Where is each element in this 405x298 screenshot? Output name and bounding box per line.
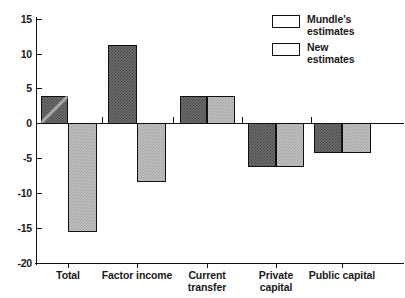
y-axis-label--10: -10 — [0, 188, 32, 198]
light-swatch-icon — [272, 43, 300, 56]
bar-private-capital-new[interactable] — [276, 123, 304, 167]
y-axis-label-5: 5 — [0, 83, 32, 93]
x-axis-line — [35, 263, 404, 264]
y-tick--10 — [36, 193, 42, 194]
zero-tick-1 — [102, 117, 103, 123]
x-axis-label-factor-income: Factor income — [92, 270, 182, 282]
x-axis-label-current-transfer: Current transfer — [172, 270, 242, 293]
x-tick-total — [68, 263, 69, 268]
bar-current-transfer-new[interactable] — [207, 96, 235, 124]
y-tick-5 — [36, 88, 42, 89]
y-tick-15 — [36, 19, 42, 20]
dark-swatch-icon — [272, 15, 300, 28]
legend-label-mundle: Mundle's estimates — [307, 14, 355, 37]
bar-public-capital-new[interactable] — [342, 123, 371, 153]
x-tick-public-capital — [342, 263, 343, 268]
legend-label-new: New estimates — [307, 42, 355, 65]
legend-item-mundle[interactable]: Mundle's estimates — [272, 14, 400, 37]
x-tick-current-transfer — [207, 263, 208, 268]
bar-total-mundle[interactable] — [41, 96, 68, 124]
x-tick-private-capital — [276, 263, 277, 268]
y-tick--15 — [36, 228, 42, 229]
chart-legend: Mundle's estimates New estimates — [272, 14, 400, 70]
zero-tick-2 — [173, 117, 174, 123]
y-axis-label--15: -15 — [0, 223, 32, 233]
y-tick-10 — [36, 54, 42, 55]
x-tick-factor-income — [137, 263, 138, 268]
bar-total-new[interactable] — [68, 123, 97, 232]
x-axis-label-public-capital: Public capital — [298, 270, 386, 282]
bar-factor-income-mundle[interactable] — [108, 45, 137, 124]
bar-factor-income-new[interactable] — [137, 123, 166, 182]
zero-tick-3 — [242, 117, 243, 123]
y-axis-label--20: -20 — [0, 258, 32, 268]
bar-private-capital-mundle[interactable] — [248, 123, 276, 167]
legend-item-new[interactable]: New estimates — [272, 42, 400, 65]
y-axis-label-15: 15 — [0, 14, 32, 24]
zero-tick-4 — [311, 117, 312, 123]
y-axis-label-10: 10 — [0, 49, 32, 59]
y-tick--5 — [36, 158, 42, 159]
bar-current-transfer-mundle[interactable] — [180, 96, 207, 124]
bar-public-capital-mundle[interactable] — [314, 123, 342, 153]
y-tick--20 — [36, 263, 42, 264]
y-axis-label--5: -5 — [0, 153, 32, 163]
grouped-bar-chart: 15 10 5 0 -5 -10 -15 -20 Total Factor in… — [0, 0, 405, 298]
y-axis-label-0: 0 — [0, 118, 32, 128]
